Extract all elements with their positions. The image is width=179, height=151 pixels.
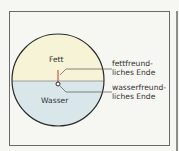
region-label-water: Wasser [41, 96, 68, 105]
annotation-fat-end-line1: fettfreund- [112, 59, 153, 68]
hydrophilic-head-icon [56, 82, 60, 86]
annotation-fat-end-line2: liches Ende [112, 68, 155, 77]
region-label-fat: Fett [49, 55, 64, 64]
annotation-water-end-line1: wasserfreund- [112, 83, 166, 92]
annotation-water-end-line2: liches Ende [112, 92, 155, 101]
